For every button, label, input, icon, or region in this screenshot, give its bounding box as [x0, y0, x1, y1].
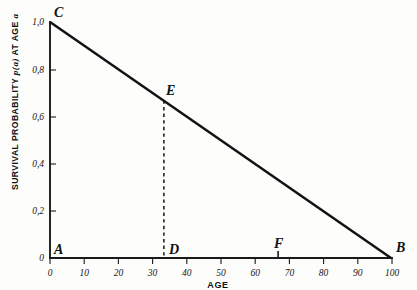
x-tick-label-60: 60	[250, 268, 260, 278]
y-tick-label-2: 0,8	[32, 65, 44, 75]
y-tick-label-3: 0,6	[32, 112, 44, 122]
y-tick-label-1: 1,0	[32, 17, 44, 27]
point-label-d: D	[168, 242, 179, 257]
point-label-f: F	[273, 236, 284, 251]
y-axis-label-plain: SURVIVAL PROBABILITY	[10, 78, 20, 190]
x-axis-label: AGE	[207, 280, 228, 290]
y-tick-label-5: 0,2	[32, 206, 44, 216]
point-label-a: A	[53, 242, 63, 257]
survival-line	[50, 22, 391, 258]
point-label-c: C	[54, 5, 64, 20]
x-tick-label-20: 20	[114, 268, 124, 278]
x-tick-label-90: 90	[353, 268, 363, 278]
survival-probability-chart: SURVIVAL PROBABILITY p(a) AT AGE a 1,0 0…	[0, 0, 417, 290]
y-tick-label-4: 0,4	[32, 159, 44, 169]
y-axis-label-italic-pa: p(a)	[10, 58, 20, 76]
x-tick-label-10: 10	[79, 268, 89, 278]
x-tick-label-40: 40	[182, 268, 192, 278]
x-tick-label-100: 100	[385, 268, 400, 278]
y-tick-label-6: 0	[39, 253, 44, 263]
y-axis-label: SURVIVAL PROBABILITY p(a) AT AGE a	[10, 13, 20, 190]
y-axis-label-italic-a: a	[10, 13, 20, 18]
x-tick-label-0: 0	[48, 268, 53, 278]
point-label-b: B	[395, 240, 405, 255]
x-tick-label-70: 70	[285, 268, 295, 278]
point-label-e: E	[165, 83, 175, 98]
y-axis-label-mid: AT AGE	[10, 21, 20, 55]
x-tick-label-30: 30	[147, 268, 158, 278]
figure-container: SURVIVAL PROBABILITY p(a) AT AGE a 1,0 0…	[0, 0, 417, 290]
x-tick-label-80: 80	[319, 268, 329, 278]
x-tick-label-50: 50	[216, 268, 226, 278]
